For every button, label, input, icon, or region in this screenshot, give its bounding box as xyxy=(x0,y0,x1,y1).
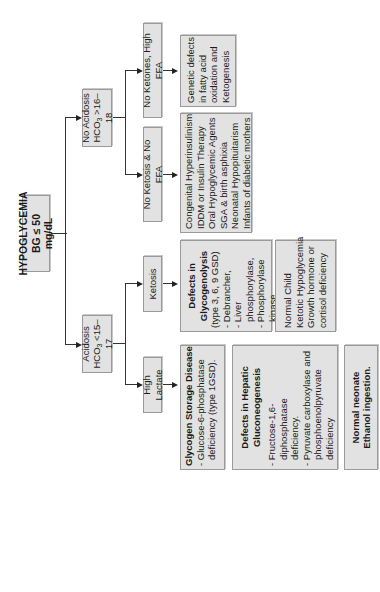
neonate-line-1: Normal neonate xyxy=(350,372,362,444)
glycogenolysis-defects-box: Defects in Glycogenolysis (type 3, 6, 9 … xyxy=(180,240,272,332)
hepatic-item-1: - Fructose-1,6-diphosphatase deficiency. xyxy=(266,400,301,466)
ketosis-box: Ketosis xyxy=(143,256,162,312)
genetic-line: Genetic defects xyxy=(185,39,197,103)
connector xyxy=(65,118,66,345)
normal-child-line: Growth hormone or xyxy=(305,244,317,328)
arrow-icon xyxy=(172,382,178,388)
hepatic-gluconeogenesis-box: Defects in Hepatic Gluconeogenesis - Fru… xyxy=(232,345,338,470)
no-acidosis-label: No Acidosis xyxy=(80,93,92,143)
no-acidosis-hco3: HCO3 >16–18 xyxy=(91,93,114,143)
no-ketones-high-ffa-label: No Ketones, High FFA xyxy=(141,27,164,114)
arrow-icon xyxy=(172,281,178,287)
connector xyxy=(125,71,126,175)
congenital-line: Congenital Hyperinsulinism xyxy=(183,117,195,229)
arrow-icon xyxy=(172,68,178,74)
glycogenolysis-item-2: - Liver phosphorylase, xyxy=(232,244,255,328)
congenital-line: Oral Hypoglycemic Agents xyxy=(206,117,218,229)
genetic-line: Ketogenesis xyxy=(220,39,232,103)
normal-child-line: Normal Child xyxy=(282,244,294,328)
congenital-hyperinsulinism-box: Congenital Hyperinsulinism IDDM or Insul… xyxy=(180,113,252,233)
root-criteria: BG ≤ 50 mg/dL xyxy=(30,199,55,268)
congenital-line: Neonatal Hypopituitarism xyxy=(229,117,241,229)
root-hypoglycemia-box: HYPOGLYCEMIA BG ≤ 50 mg/dL xyxy=(22,195,50,272)
genetic-line: in fatty acid xyxy=(197,39,209,103)
neonate-line-2: Ethanol ingestion. xyxy=(361,366,373,448)
arrow-icon xyxy=(172,172,178,178)
no-acidosis-box: No Acidosis HCO3 >16–18 xyxy=(82,89,112,147)
connector xyxy=(125,284,126,385)
glycogenolysis-title-1: Defects in xyxy=(186,244,198,328)
root-title: HYPOGLYCEMIA xyxy=(17,191,30,275)
normal-child-line: cortisol deficiency xyxy=(317,244,329,328)
no-ketones-high-ffa-box: No Ketones, High FFA xyxy=(143,23,162,118)
genetic-line: oxidation and xyxy=(208,39,220,103)
congenital-line: Infants of diabetic mothers xyxy=(241,117,253,229)
congenital-line: SGA & birth asphixia xyxy=(218,117,230,229)
ketosis-label: Ketosis xyxy=(147,268,159,299)
genetic-defects-box: Genetic defects in fatty acid oxidation … xyxy=(180,35,236,107)
acidosis-hco3: HCO3 <15–17 xyxy=(91,319,114,369)
normal-child-line: Ketotic Hypoglycemia xyxy=(294,244,306,328)
gsd-item: - Glucose-6-phosphatase deficiency (type… xyxy=(195,349,218,466)
gsd-title: Glycogen Storage Disease xyxy=(183,349,195,466)
no-ketosis-no-ffa-box: No Ketosis & No FFA xyxy=(143,127,162,222)
glycogenolysis-subtitle: (type 3, 6, 9 GSD) xyxy=(209,244,221,328)
glycogenolysis-item-1: - Debrancher, xyxy=(221,244,233,328)
high-lactate-label: High Lactate xyxy=(141,361,164,409)
glycogenolysis-title-2: Glycogenolysis xyxy=(198,244,210,328)
normal-child-box: Normal Child Ketotic Hypoglycemia Growth… xyxy=(275,240,336,332)
acidosis-label: Acidosis xyxy=(80,326,92,361)
hepatic-title-1: Defects in Hepatic xyxy=(239,349,251,466)
hypoglycemia-flowchart: HYPOGLYCEMIA BG ≤ 50 mg/dL Acidosis HCO3… xyxy=(0,0,380,592)
glycogen-storage-disease-box: Glycogen Storage Disease - Glucose-6-pho… xyxy=(180,345,225,470)
high-lactate-box: High Lactate xyxy=(143,357,162,413)
acidosis-box: Acidosis HCO3 <15–17 xyxy=(82,315,112,373)
no-ketosis-no-ffa-label: No Ketosis & No FFA xyxy=(141,131,164,218)
normal-neonate-box: Normal neonate Ethanol ingestion. xyxy=(344,345,378,470)
congenital-line: IDDM or Insulin Therapy xyxy=(195,117,207,229)
hepatic-item-2: - Pyruvate carboxylase and phosphoenolpy… xyxy=(301,349,336,466)
hepatic-title-2: Gluconeogenesis xyxy=(251,349,263,466)
